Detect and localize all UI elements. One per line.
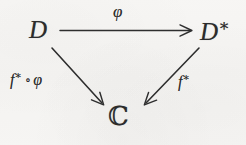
node-complex-plane: ℂ <box>108 104 129 130</box>
arrow-label-phi: φ <box>113 3 122 20</box>
arrow-left-fstar-circ-phi <box>52 48 108 109</box>
arrow-right-fstar <box>140 48 199 109</box>
node-d-star-base: D <box>200 18 218 45</box>
node-d: D <box>29 17 47 42</box>
commutative-diagram-figure: D D∗ ℂ φ f∗∘φ f∗ <box>0 0 246 145</box>
arrow-top-phi <box>60 25 192 36</box>
arrow-label-left-argument: φ <box>33 71 42 88</box>
composition-ring-icon: ∘ <box>25 73 31 87</box>
arrow-label-right-superscript: ∗ <box>182 71 189 83</box>
node-d-star-superscript: ∗ <box>219 16 231 35</box>
node-d-star: D∗ <box>200 17 230 44</box>
arrow-label-left-superscript: ∗ <box>14 69 21 81</box>
arrow-label-fstar: f∗ <box>178 72 190 90</box>
arrow-label-fstar-compose-phi: f∗∘φ <box>10 70 42 88</box>
